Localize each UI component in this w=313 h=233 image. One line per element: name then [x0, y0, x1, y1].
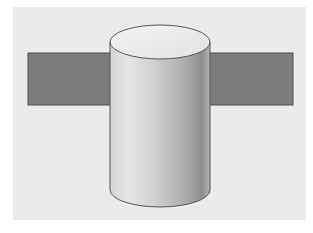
figure — [0, 0, 313, 233]
cylinder-body — [110, 42, 210, 207]
cylinder-top — [110, 25, 210, 59]
cylinder-bar-diagram — [0, 0, 313, 233]
